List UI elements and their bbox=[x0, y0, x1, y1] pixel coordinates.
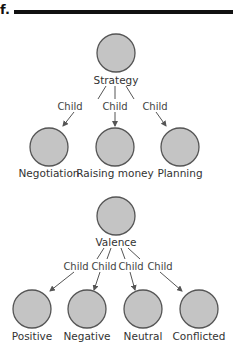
edge-label: Child bbox=[63, 261, 88, 272]
node-label-strategy: Strategy bbox=[94, 74, 139, 86]
edge-valence-conflicted-arrow bbox=[160, 272, 182, 291]
tree-valence: Child Child Child Child Valence Positive… bbox=[12, 197, 226, 342]
node-positive bbox=[13, 290, 51, 328]
edge-label: Child bbox=[118, 261, 143, 272]
edge-strategy-planning-upper bbox=[126, 86, 134, 99]
node-label-planning: Planning bbox=[157, 167, 202, 179]
edge-label: Child bbox=[91, 261, 116, 272]
node-raising-money bbox=[96, 128, 134, 166]
node-label-positive: Positive bbox=[12, 330, 52, 342]
edge-label: Child bbox=[147, 261, 172, 272]
node-label-negotiation: Negotiation bbox=[19, 167, 80, 179]
tree-strategy: Child Child Child Strategy Negotiation R… bbox=[19, 34, 203, 179]
node-negotiation bbox=[30, 128, 68, 166]
node-strategy bbox=[97, 34, 135, 72]
edge-label: Child bbox=[102, 101, 127, 112]
tree-diagram: Child Child Child Strategy Negotiation R… bbox=[0, 0, 233, 356]
node-neutral bbox=[124, 290, 162, 328]
node-label-valence: Valence bbox=[95, 236, 136, 248]
node-label-neutral: Neutral bbox=[124, 330, 163, 342]
edge-valence-conflicted-upper bbox=[128, 248, 140, 259]
node-valence bbox=[97, 197, 135, 235]
edge-valence-negative-arrow bbox=[94, 272, 100, 290]
node-planning bbox=[161, 128, 199, 166]
node-label-conflicted: Conflicted bbox=[173, 330, 226, 342]
edge-label: Child bbox=[142, 101, 167, 112]
edge-strategy-negotiation-arrow bbox=[63, 112, 74, 126]
node-conflicted bbox=[180, 290, 218, 328]
edge-valence-positive-arrow bbox=[50, 272, 74, 291]
edge-valence-positive-upper bbox=[97, 248, 104, 259]
node-label-negative: Negative bbox=[63, 330, 110, 342]
edge-strategy-planning-arrow bbox=[156, 112, 166, 126]
edge-valence-neutral-arrow bbox=[130, 272, 135, 290]
edge-valence-negative-upper bbox=[107, 248, 111, 259]
edge-strategy-negotiation-upper bbox=[98, 86, 106, 99]
edge-label: Child bbox=[57, 101, 82, 112]
node-label-raising-money: Raising money bbox=[76, 167, 153, 179]
node-negative bbox=[68, 290, 106, 328]
edge-valence-neutral-upper bbox=[121, 248, 125, 259]
